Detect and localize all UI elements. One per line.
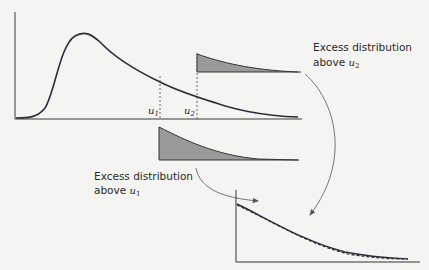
gpd-fitted-curve — [237, 204, 408, 259]
excess-u1-label: Excess distribution above u1 — [94, 170, 193, 198]
excess-u1-plot — [159, 127, 299, 160]
empirical-excess-curve — [237, 205, 408, 259]
threshold-u2-label: u2 — [184, 105, 195, 118]
svg-text:Excess distribution: Excess distribution — [313, 41, 412, 53]
excess-u2-plot — [197, 54, 301, 72]
excess-distribution-diagram: u1 u2 Excess distribution above u2 Exces… — [0, 0, 429, 270]
svg-text:above u1: above u1 — [94, 184, 140, 198]
svg-text:above u2: above u2 — [313, 56, 359, 70]
gpd-fit-plot — [236, 190, 420, 262]
main-tail — [216, 103, 302, 119]
svg-text:Excess distribution: Excess distribution — [94, 170, 193, 182]
threshold-u1-label: u1 — [148, 105, 159, 118]
arrow-from-u1 — [196, 168, 258, 201]
arrow-from-u2 — [305, 74, 335, 215]
excess-u2-label: Excess distribution above u2 — [313, 41, 412, 70]
main-plot: u1 u2 — [15, 12, 216, 119]
excess-u1-fill — [159, 127, 298, 160]
excess-u2-fill — [197, 54, 298, 72]
